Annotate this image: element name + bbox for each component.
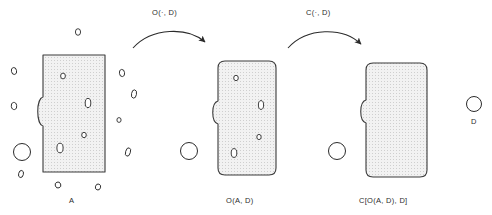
structuring-element-disk-opened	[181, 143, 198, 160]
arrow-closing-label: C(·, D)	[306, 8, 331, 17]
panel-closed-caption: C[O(A, D), D]	[359, 196, 407, 205]
arrow-opening-label: O(·, D)	[152, 8, 177, 17]
diagram-canvas	[0, 0, 492, 215]
morphology-diagram: O(·, D) C(·, D) A O(A, D) C[O(A, D), D] …	[0, 0, 492, 215]
panel-opened-shape	[213, 61, 276, 175]
panel-original-caption: A	[69, 196, 74, 205]
structuring-element-disk-legend	[467, 97, 482, 112]
structuring-element-disk-closed	[329, 143, 346, 160]
panel-original-shape	[38, 55, 105, 172]
arrow-closing	[288, 32, 361, 48]
panel-closed-shape	[361, 63, 427, 177]
arrow-opening	[133, 31, 205, 48]
structuring-element-disk-original	[14, 144, 31, 161]
panel-opened-caption: O(A, D)	[226, 196, 254, 205]
structuring-element-label: D	[471, 117, 476, 126]
